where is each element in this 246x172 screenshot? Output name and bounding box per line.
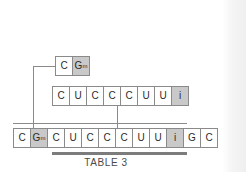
sequence-cell: C [98,128,116,148]
sequence-base: U [159,91,166,101]
sequence-cell: U [69,86,87,106]
sequence-cell: i [166,128,184,148]
sequence-base-superscript: m [82,63,87,69]
sequence-base: C [108,91,115,101]
sequence-cell: U [132,128,150,148]
sequence-cell: C [120,86,138,106]
sequence-assembly-figure: CGm CUCCCUUi CGmCUCCCUUiGC TABLE 3 [0,0,246,172]
sequence-cell: C [200,128,218,148]
sequence-cell: C [52,86,70,106]
sequence-cell: C [115,128,133,148]
assembled-sequence-underline [52,152,187,155]
sequence-cell: U [149,128,167,148]
sequence-cell: U [154,86,172,106]
sequence-base: C [57,91,64,101]
sequence-base: i [179,91,181,101]
assembled-sequence-row: CGmCUCCCUUiGC [13,128,218,148]
sequence-cell: i [171,86,189,106]
sequence-base-superscript: m [40,135,45,141]
sequence-base: G [188,133,196,143]
figure-caption: TABLE 3 [0,157,212,168]
sequence-cell: U [64,128,82,148]
fragment-2-connector-vertical [117,106,118,128]
sequence-base: C [103,133,110,143]
sequence-cell: U [137,86,155,106]
sequence-base: C [52,133,59,143]
scan-edge-band [222,0,246,172]
sequence-base: G [75,61,83,71]
sequence-cell: C [103,86,121,106]
sequence-base: U [74,91,81,101]
sequence-base: C [205,133,212,143]
sequence-cell: Gm [30,128,48,148]
sequence-cell: C [13,128,31,148]
sequence-base: C [91,91,98,101]
bracket-rule-right [55,123,187,124]
sequence-base: C [18,133,25,143]
sequence-base: i [174,133,176,143]
sequence-base: U [69,133,76,143]
fragment-2-row: CUCCCUUi [52,86,189,106]
sequence-base: U [154,133,161,143]
sequence-cell: Gm [72,56,90,76]
sequence-cell: C [86,86,104,106]
sequence-base: G [33,133,41,143]
sequence-base: C [60,61,67,71]
sequence-cell: C [55,56,73,76]
sequence-base: C [86,133,93,143]
sequence-cell: C [47,128,65,148]
sequence-base: U [137,133,144,143]
sequence-cell: C [81,128,99,148]
sequence-base: C [120,133,127,143]
fragment-1-connector-vertical [33,66,34,128]
sequence-cell: G [183,128,201,148]
fragment-1-row: CGm [55,56,90,76]
sequence-base: C [125,91,132,101]
sequence-base: U [142,91,149,101]
bracket-rule-left [13,123,55,124]
fragment-1-connector-horizontal [33,66,56,67]
